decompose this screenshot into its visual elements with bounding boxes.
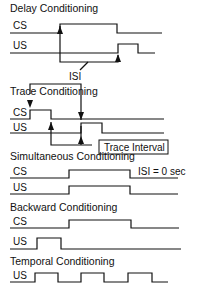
simultaneous-conditioning: Simultaneous Conditioning CS ISI = 0 sec… [10,150,186,194]
trace-us-onset-arrow-icon [78,136,84,144]
conditioning-diagram: Delay Conditioning CS US ISI Trace Condi… [0,0,198,290]
trace-cs-label: CS [13,107,27,118]
trace-title: Trace Conditioning [10,85,98,97]
simultaneous-cs-label: CS [13,166,27,177]
isi-pointer [80,62,88,70]
backward-cs-trace [10,220,179,228]
delay-us-onset-arrow-icon [115,54,121,62]
backward-us-trace [10,238,181,249]
backward-cs-label: CS [13,216,27,227]
trace-us-label: US [13,122,27,133]
backward-conditioning: Backward Conditioning CS US [10,201,181,249]
temporal-conditioning: Temporal Conditioning US [10,255,168,282]
delay-us-trace [10,44,155,53]
simultaneous-title: Simultaneous Conditioning [10,150,135,162]
temporal-title: Temporal Conditioning [10,255,115,267]
trace-us-trace [10,123,164,133]
backward-title: Backward Conditioning [10,201,118,213]
delay-title: Delay Conditioning [10,2,98,14]
delay-us-label: US [13,40,27,51]
simultaneous-isi-note: ISI = 0 sec [138,166,186,177]
simultaneous-us-label: US [13,182,27,193]
delay-isi-bracket [60,26,118,62]
trace-cs-offset-arrow-icon [48,122,54,130]
temporal-us-label: US [13,270,27,281]
backward-us-label: US [13,236,27,247]
delay-conditioning: Delay Conditioning CS US ISI [10,2,162,82]
delay-cs-trace [10,24,162,33]
delay-cs-onset-arrow-icon [57,26,63,34]
delay-cs-label: CS [13,20,27,31]
trace-cs-trace [10,110,164,119]
trace-conditioning: Trace Conditioning CS US Trace Interval [10,84,168,154]
temporal-us-trace [10,273,168,282]
delay-isi-label: ISI [69,71,81,82]
simultaneous-us-trace [10,186,178,194]
trace-cs-arrow-icon [27,100,33,108]
